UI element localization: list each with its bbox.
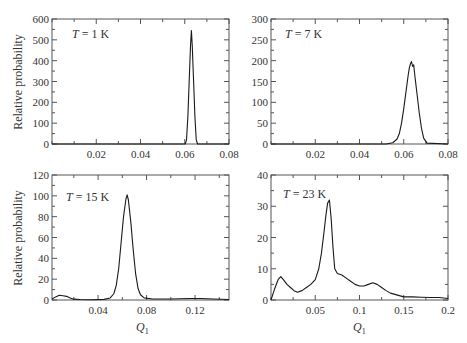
y-tick-label: 500 [33,34,50,46]
y-tick-label: 20 [257,232,269,244]
panel-annotation: T = 15 K [66,190,109,204]
y-tick-label: 100 [33,117,50,129]
y-tick-label: 10 [257,263,269,275]
y-axis-label: Relative probability [11,34,25,130]
x-tick-label: 0.06 [394,148,414,160]
x-tick-label: 0.04 [350,148,370,160]
x-tick-label: 0.02 [306,148,325,160]
x-axis-label: Q1 [353,320,366,336]
x-tick-label: 0.08 [438,148,458,160]
panel-t23k: 0.050.10.150.2010203040 T = 23 K Q1 [257,169,455,336]
x-tick-label: 0.08 [219,148,239,160]
y-tick-label: 60 [38,232,50,244]
panel-t7k: 0.020.040.060.08050100150200250300 T = 7… [252,13,459,160]
x-tick-label: 0.04 [131,148,151,160]
y-tick-label: 0 [263,138,269,150]
y-tick-label: 400 [33,55,50,67]
axis-ticks: 0.020.040.060.08050100150200250300 [252,13,459,160]
y-tick-label: 50 [257,117,269,129]
axis-ticks: 0.020.040.060.080100200300400500600 [33,13,240,160]
y-tick-label: 40 [257,169,269,181]
y-tick-label: 250 [252,34,269,46]
y-tick-label: 200 [252,55,269,67]
y-tick-label: 300 [33,76,50,88]
y-tick-label: 0 [263,294,269,306]
panel-annotation: T = 7 K [285,27,322,41]
y-tick-label: 80 [38,211,50,223]
data-curve [271,200,448,300]
x-tick-label: 0.04 [88,304,108,316]
y-tick-label: 0 [44,294,50,306]
y-tick-label: 100 [252,96,269,108]
panel-t15k: 0.040.080.12020406080100120 T = 15 K Rel… [11,169,229,336]
figure: 0.020.040.060.080100200300400500600 T = … [0,0,467,343]
axis-ticks: 0.040.080.12020406080100120 [33,169,230,316]
y-axis-label: Relative probability [11,190,25,286]
chart-canvas: 0.020.040.060.080100200300400500600 T = … [0,0,467,343]
x-tick-label: 0.12 [185,304,204,316]
y-tick-label: 100 [33,190,50,202]
data-curve [271,62,448,145]
y-tick-label: 600 [33,13,50,25]
y-tick-label: 120 [33,169,50,181]
panel-t1k: 0.020.040.060.080100200300400500600 T = … [11,13,239,160]
panel-annotation: T = 1 K [72,27,109,41]
data-curve [52,30,229,144]
x-tick-label: 0.05 [306,304,326,316]
x-tick-label: 0.06 [175,148,195,160]
y-tick-label: 200 [33,96,50,108]
y-tick-label: 40 [38,252,50,264]
x-tick-label: 0.02 [87,148,106,160]
x-axis-label: Q1 [136,320,149,336]
x-tick-label: 0.15 [394,304,414,316]
data-curve [52,195,229,300]
x-tick-label: 0.08 [137,304,157,316]
y-tick-label: 0 [44,138,50,150]
y-tick-label: 150 [252,76,269,88]
y-tick-label: 30 [257,200,269,212]
y-tick-label: 20 [38,273,50,285]
y-tick-label: 300 [252,13,269,25]
panel-annotation: T = 23 K [283,187,326,201]
x-tick-label: 0.1 [353,304,367,316]
x-tick-label: 0.2 [441,304,455,316]
